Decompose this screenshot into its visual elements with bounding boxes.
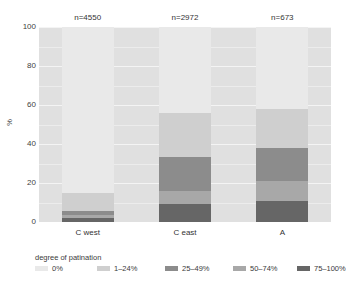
bar-segment[interactable]: [159, 204, 211, 222]
x-tick-label: A: [280, 228, 285, 237]
bar-segment[interactable]: [256, 181, 308, 201]
group-count-label: n=2972: [172, 13, 199, 22]
y-tick-80: 80: [10, 62, 36, 70]
bar-segment[interactable]: [62, 215, 114, 218]
bar-segment[interactable]: [159, 191, 211, 205]
legend-item[interactable]: 25–49%: [165, 265, 210, 273]
y-tick-20: 20: [10, 179, 36, 187]
legend-items: 0%1–24%25–49%50–74%75–100%: [35, 265, 335, 277]
bar-segment[interactable]: [62, 27, 114, 193]
bar-segment[interactable]: [159, 113, 211, 157]
stacked-bar[interactable]: [62, 27, 114, 222]
legend-label: 0%: [52, 265, 63, 273]
legend-swatch: [233, 266, 246, 271]
legend-item[interactable]: 75–100%: [297, 265, 346, 273]
legend-swatch: [35, 266, 48, 271]
bar-segment[interactable]: [256, 27, 308, 109]
y-tick-60: 60: [10, 101, 36, 109]
legend: degree of patination 0%1–24%25–49%50–74%…: [35, 254, 335, 277]
group-count-label: n=673: [271, 13, 293, 22]
y-tick-100: 100: [10, 23, 36, 31]
legend-swatch: [297, 266, 310, 271]
legend-label: 1–24%: [114, 265, 137, 273]
legend-item[interactable]: 50–74%: [233, 265, 278, 273]
bar-segment[interactable]: [62, 193, 114, 212]
legend-title: degree of patination: [35, 254, 335, 262]
legend-label: 75–100%: [314, 265, 346, 273]
x-tick-label: C west: [75, 228, 99, 237]
bar-segment[interactable]: [159, 157, 211, 191]
y-tick-0: 0: [10, 218, 36, 226]
x-tick-label: C east: [173, 228, 196, 237]
legend-item[interactable]: 0%: [35, 265, 63, 273]
legend-swatch: [97, 266, 110, 271]
bar-group: [256, 27, 308, 222]
y-axis: 100 80 60 40 20 0: [10, 0, 36, 292]
bar-segment[interactable]: [256, 109, 308, 148]
bar-segment[interactable]: [256, 148, 308, 181]
legend-label: 50–74%: [250, 265, 278, 273]
plot-panel: [39, 27, 331, 222]
bar-segment[interactable]: [159, 27, 211, 113]
bar-segment[interactable]: [62, 211, 114, 215]
bar-group: [62, 27, 114, 222]
stacked-bar[interactable]: [256, 27, 308, 222]
legend-label: 25–49%: [182, 265, 210, 273]
stacked-bar[interactable]: [159, 27, 211, 222]
bar-segment[interactable]: [256, 201, 308, 222]
legend-item[interactable]: 1–24%: [97, 265, 137, 273]
bar-segment[interactable]: [62, 218, 114, 222]
y-tick-40: 40: [10, 140, 36, 148]
bar-group: [159, 27, 211, 222]
legend-swatch: [165, 266, 178, 271]
group-count-label: n=4550: [74, 13, 101, 22]
